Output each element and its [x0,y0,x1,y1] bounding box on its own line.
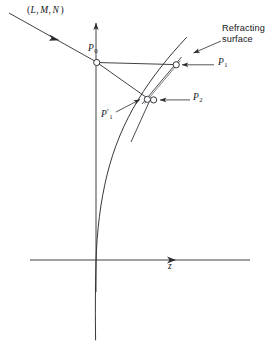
annotation-leaders-group [116,41,221,112]
p1prime-subscript: 1 [109,113,113,120]
refracting-surface-label: Refracting surface [222,23,265,44]
refracting-surface-line1: Refracting [222,23,265,34]
point-label-p1-prime: P′1 [101,109,113,121]
paren-close: ) [61,5,65,15]
comma-1: , [36,5,39,15]
point-label-p0: P0 [88,44,98,55]
direction-cosines-label: (L, M, N ) [27,6,64,16]
point-marker-p2 [151,97,157,103]
ray-p0-to-p1prime [97,63,150,101]
refracting-surface-curve [95,38,186,341]
leader-refracting-surface [194,41,222,53]
point-label-p2: P2 [193,93,203,104]
point-marker-p0 [94,59,100,65]
leader-p1-prime [116,100,140,113]
label-N: N [53,5,60,15]
point-marker-p1 [173,62,179,68]
label-M: M [40,5,48,15]
ray-paths-group [9,13,182,142]
figure-container: (L, M, N ) P0 P1 P2 P′1 Refracting surfa… [0,0,278,346]
p1-subscript: 1 [224,61,228,68]
comma-2: , [49,5,52,15]
z-axis-label: z [168,262,172,272]
point-marker-p1-prime [144,96,150,102]
ray-diagram-svg [0,0,278,346]
p0-subscript: 0 [94,47,98,54]
p2-subscript: 2 [199,96,203,103]
incident-ray-direction-arrow-icon [49,35,60,41]
point-markers-group [94,59,180,103]
point-label-p1: P1 [218,58,228,69]
refracting-surface-line2: surface [222,34,265,45]
figure-caption [0,336,278,346]
